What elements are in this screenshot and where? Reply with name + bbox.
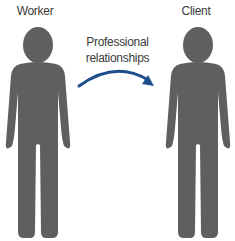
client-person-icon: [166, 27, 230, 238]
diagram-canvas: [0, 0, 235, 241]
curved-arrow-icon: [79, 71, 154, 86]
worker-person-icon: [6, 27, 70, 238]
